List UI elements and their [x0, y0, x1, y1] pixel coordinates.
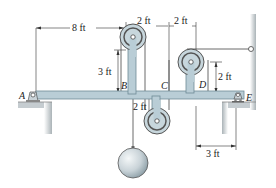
dim-label-bc: 2 ft	[137, 15, 151, 26]
hanging-weight	[118, 146, 148, 178]
point-label-A: A	[18, 90, 26, 101]
ground-support-left	[18, 102, 52, 134]
pulley-B	[120, 24, 146, 57]
dim-label-3ft-vertical: 3 ft	[98, 66, 112, 77]
dim-label-2ft-D: 2 ft	[218, 71, 232, 82]
wall-anchor	[249, 47, 254, 52]
dim-label-2ft-C: 2 ft	[133, 101, 147, 112]
dim-label-cd: 2 ft	[174, 15, 188, 26]
diagram-canvas: 8 ft 2 ft 2 ft 3 ft 2 ft 2 ft 3 ft A B C…	[0, 0, 276, 188]
pulley-C	[144, 100, 170, 134]
point-label-B: B	[121, 80, 127, 91]
dim-label-3ft-bottom: 3 ft	[206, 148, 220, 159]
point-label-C: C	[161, 80, 168, 91]
pulley-D	[178, 49, 204, 82]
point-label-D: D	[198, 79, 207, 90]
point-label-E: E	[245, 92, 252, 103]
dim-label-8ft: 8 ft	[72, 22, 86, 33]
beam-pulley-diagram: 8 ft 2 ft 2 ft 3 ft 2 ft 2 ft 3 ft A B C…	[0, 0, 276, 188]
